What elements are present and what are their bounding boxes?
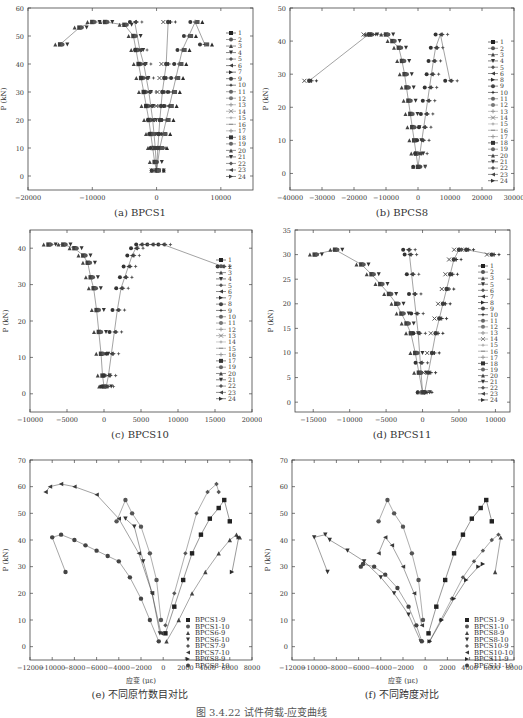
svg-text:20: 20 <box>18 590 26 598</box>
chart-panel-f: −12000−10000−8000−6000−4000−200002000400… <box>262 452 523 702</box>
svg-text:40: 40 <box>18 537 26 545</box>
chart-e: −12000−10000−8000−6000−4000−200002000400… <box>0 452 262 684</box>
svg-text:24: 24 <box>228 395 236 402</box>
svg-text:2000: 2000 <box>177 664 194 672</box>
svg-text:0: 0 <box>22 643 26 651</box>
plot-area: −20000−100000100000102030405060应变 (με)P … <box>0 5 253 206</box>
svg-text:10: 10 <box>280 617 288 625</box>
svg-text:0: 0 <box>423 664 427 672</box>
y-axis-label: P (kN) <box>267 309 275 332</box>
svg-text:−8000: −8000 <box>63 664 85 672</box>
svg-text:−10000: −10000 <box>301 664 327 672</box>
svg-text:30: 30 <box>18 281 26 289</box>
chart-f: −12000−10000−8000−6000−4000−200002000400… <box>262 452 523 684</box>
svg-text:−10000: −10000 <box>17 416 43 424</box>
svg-text:10000: 10000 <box>211 194 232 202</box>
plot-area: −40000−30000−20000−100000100002000030000… <box>262 5 523 206</box>
svg-text:−20000: −20000 <box>341 194 367 202</box>
svg-text:−5000: −5000 <box>375 416 397 424</box>
svg-text:30000: 30000 <box>504 194 523 202</box>
svg-text:15000: 15000 <box>205 416 226 424</box>
svg-text:−4000: −4000 <box>108 664 130 672</box>
svg-text:−8000: −8000 <box>325 664 347 672</box>
svg-text:0: 0 <box>420 416 424 424</box>
svg-text:10: 10 <box>278 137 286 145</box>
svg-text:−10000: −10000 <box>373 194 399 202</box>
svg-text:8000: 8000 <box>244 664 261 672</box>
chart-panel-e: −12000−10000−8000−6000−4000−200002000400… <box>0 452 262 702</box>
svg-text:0: 0 <box>287 399 291 407</box>
x-axis-label: 应变 (με) <box>126 676 156 684</box>
svg-text:70: 70 <box>280 457 288 465</box>
svg-text:40: 40 <box>278 38 286 46</box>
svg-text:0: 0 <box>20 173 24 181</box>
svg-text:50: 50 <box>280 510 288 518</box>
svg-text:20: 20 <box>280 590 288 598</box>
svg-text:20: 20 <box>16 117 24 125</box>
svg-text:−2000: −2000 <box>392 664 414 672</box>
svg-text:5000: 5000 <box>133 416 150 424</box>
chart-d: −15000−10000−500005000100000510152025303… <box>262 222 523 427</box>
svg-text:−30000: −30000 <box>309 194 335 202</box>
svg-text:60: 60 <box>18 483 26 491</box>
svg-text:60: 60 <box>280 483 288 491</box>
chart-panel-c: −10000−500005000100001500020000010203040… <box>0 222 262 444</box>
svg-text:BPCS11-10: BPCS11-10 <box>474 662 513 670</box>
svg-text:−6000: −6000 <box>86 664 108 672</box>
svg-text:25: 25 <box>283 276 291 284</box>
chart-panel-a: −20000−100000100000102030405060应变 (με)P … <box>0 0 262 222</box>
svg-text:30: 30 <box>16 89 24 97</box>
svg-text:60: 60 <box>16 5 24 13</box>
svg-text:−10000: −10000 <box>337 416 363 424</box>
svg-text:0: 0 <box>416 194 420 202</box>
svg-text:24: 24 <box>500 177 508 184</box>
svg-text:0: 0 <box>284 643 288 651</box>
svg-text:50: 50 <box>18 510 26 518</box>
chart-f-caption: (f) 不同跨度对比 <box>302 686 502 701</box>
svg-text:20: 20 <box>18 318 26 326</box>
svg-text:−40000: −40000 <box>277 194 303 202</box>
chart-a: −20000−100000100000102030405060应变 (με)P … <box>0 0 262 205</box>
svg-text:70: 70 <box>18 457 26 465</box>
svg-text:40: 40 <box>16 61 24 69</box>
svg-text:20000: 20000 <box>472 194 493 202</box>
svg-text:−10000: −10000 <box>39 664 65 672</box>
chart-panel-b: −40000−30000−20000−100000100002000030000… <box>262 0 523 222</box>
chart-c-caption: (c) BPCS10 <box>40 429 240 440</box>
svg-text:35: 35 <box>283 227 291 235</box>
svg-text:40: 40 <box>280 537 288 545</box>
svg-text:24: 24 <box>490 396 498 403</box>
svg-text:10: 10 <box>18 354 26 362</box>
chart-d-caption: (d) BPCS11 <box>302 429 502 440</box>
chart-b: −40000−30000−20000−100000100002000030000… <box>262 0 523 205</box>
y-axis-label: P (kN) <box>0 87 8 110</box>
svg-text:30: 30 <box>283 251 291 259</box>
svg-text:50: 50 <box>278 5 286 13</box>
y-axis-label: P (kN) <box>2 548 10 571</box>
svg-text:24: 24 <box>238 173 246 180</box>
svg-text:40: 40 <box>18 245 26 253</box>
svg-text:10000: 10000 <box>168 416 189 424</box>
svg-text:0: 0 <box>22 390 26 398</box>
svg-text:10: 10 <box>283 349 291 357</box>
svg-text:20: 20 <box>278 104 286 112</box>
chart-a-caption: (a) BPCS1 <box>40 207 240 218</box>
svg-text:20: 20 <box>283 300 291 308</box>
svg-text:2000: 2000 <box>439 664 456 672</box>
x-axis-label: 应变 (με) <box>388 676 418 684</box>
y-axis-label: P (kN) <box>262 87 270 110</box>
svg-text:BPCS8-10: BPCS8-10 <box>195 662 230 670</box>
plot-area: −15000−10000−500005000100000510152025303… <box>267 227 510 428</box>
svg-text:10000: 10000 <box>440 194 461 202</box>
svg-text:0: 0 <box>102 416 106 424</box>
svg-text:−5000: −5000 <box>56 416 78 424</box>
svg-text:−2000: −2000 <box>130 664 152 672</box>
svg-text:10000: 10000 <box>485 416 506 424</box>
svg-text:30: 30 <box>18 563 26 571</box>
svg-text:50: 50 <box>16 33 24 41</box>
y-axis-label: P (kN) <box>264 548 272 571</box>
chart-e-caption: (e) 不同原竹数目对比 <box>40 686 240 701</box>
chart-c: −10000−500005000100001500020000010203040… <box>0 222 262 427</box>
svg-text:10: 10 <box>18 617 26 625</box>
svg-text:−6000: −6000 <box>348 664 370 672</box>
